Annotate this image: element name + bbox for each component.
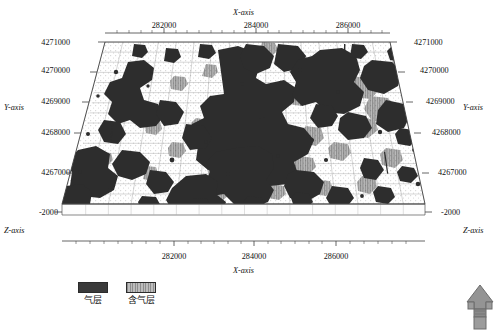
texture-overlay xyxy=(62,42,425,204)
legend-item-gas-layer: 气层 xyxy=(78,282,108,305)
legend-label-gas-layer: 气层 xyxy=(84,296,102,305)
figure-canvas: X-axis 282000 284000 286000 4271000 4270… xyxy=(0,0,503,333)
legend-label-gas-bearing-layer: 含气层 xyxy=(128,296,155,305)
legend-swatch-gas-bearing-layer xyxy=(126,282,156,293)
legend-swatch-gas-layer xyxy=(78,282,108,293)
legend: 气层 含气层 xyxy=(78,282,156,305)
block-diagram-plot xyxy=(0,0,503,333)
north-arrow-icon xyxy=(462,283,498,331)
front-face xyxy=(62,204,425,215)
legend-item-gas-bearing-layer: 含气层 xyxy=(126,282,156,305)
